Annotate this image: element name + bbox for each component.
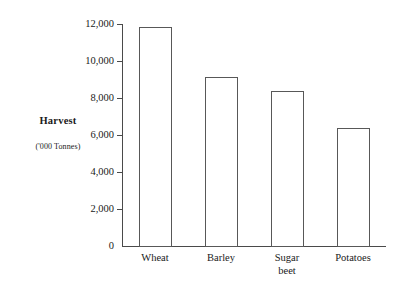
y-tick-mark [117, 24, 122, 25]
y-axis-title-units: ('000 Tonnes) [8, 141, 108, 152]
y-tick-label: 6,000 [90, 127, 114, 142]
bar-chart: Harvest ('000 Tonnes) 02,0004,0006,0008,… [0, 0, 408, 291]
y-tick-label: 4,000 [90, 164, 114, 179]
y-tick-mark [117, 172, 122, 173]
y-tick: 2,000 [0, 209, 122, 210]
bar [337, 128, 370, 247]
x-axis-label: Sugar beet [254, 251, 320, 277]
bar [271, 91, 304, 247]
y-axis-title-main: Harvest [8, 114, 108, 127]
y-tick: 6,000 [0, 135, 122, 136]
y-tick-label: 8,000 [90, 90, 114, 105]
y-tick-label: 0 [109, 238, 114, 253]
y-tick-label: 10,000 [85, 53, 114, 68]
y-tick-label: 2,000 [90, 201, 114, 216]
y-tick-label: 12,000 [85, 16, 114, 31]
y-tick: 8,000 [0, 98, 122, 99]
bar [205, 77, 238, 247]
x-axis-label: Wheat [122, 251, 188, 264]
x-axis-label: Potatoes [320, 251, 386, 264]
y-axis-line [122, 24, 123, 247]
x-axis-label: Barley [188, 251, 254, 264]
y-tick: 10,000 [0, 61, 122, 62]
y-tick-mark [117, 209, 122, 210]
y-tick: 12,000 [0, 24, 122, 25]
y-tick-mark [117, 135, 122, 136]
y-tick: 0 [0, 246, 122, 247]
bar [139, 27, 172, 247]
y-tick-mark [117, 98, 122, 99]
y-tick: 4,000 [0, 172, 122, 173]
y-tick-mark [117, 61, 122, 62]
